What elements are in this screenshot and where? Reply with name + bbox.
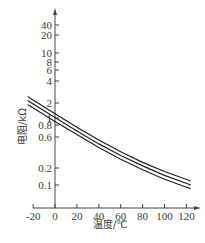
y-tick-label: 0.6	[38, 131, 52, 143]
y-axis-title: 电阻/kΩ	[16, 108, 28, 145]
curves	[28, 96, 191, 188]
x-tick-label: 0	[52, 210, 58, 222]
curve-upper	[28, 96, 191, 181]
y-tick-label: 20	[41, 29, 53, 41]
y-tick-label: 2	[47, 97, 53, 109]
x-tick-label: 100	[156, 210, 173, 222]
x-tick-label: 20	[71, 210, 83, 222]
y-tick-label: 0.1	[38, 179, 52, 191]
y-tick-label: 4	[47, 75, 53, 87]
x-tick-label: 120	[178, 210, 195, 222]
x-tick-label: -20	[26, 210, 41, 222]
chart-canvas: 402010864210.80.60.20.1 -200204060801001…	[0, 0, 205, 243]
y-tick-label: 0.8	[38, 119, 52, 131]
y-axis-arrow-icon	[53, 8, 57, 15]
x-tick-label: 80	[137, 210, 149, 222]
x-axis-arrow-icon	[194, 206, 201, 210]
x-axis-title: 温度/℃	[93, 218, 128, 230]
y-tick-label: 0.2	[38, 162, 52, 174]
